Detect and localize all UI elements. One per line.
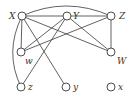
node-Z xyxy=(107,12,115,20)
label-y: y xyxy=(72,82,79,92)
edge-Y-W xyxy=(67,16,111,52)
label-z: z xyxy=(27,82,33,92)
node-X xyxy=(18,12,26,20)
label-x: x xyxy=(118,82,123,92)
node-z xyxy=(17,83,25,91)
node-W xyxy=(107,48,115,56)
node-w xyxy=(17,48,25,56)
edge-Y-z xyxy=(21,16,67,87)
label-w: w xyxy=(25,56,33,66)
graph-diagram: X Y Z w W z y x xyxy=(0,0,135,99)
label-X: X xyxy=(8,11,16,21)
label-Z: Z xyxy=(118,11,126,21)
label-Y: Y xyxy=(73,11,80,21)
edges xyxy=(13,6,111,87)
node-y xyxy=(62,83,70,91)
nodes xyxy=(17,12,115,91)
node-Y xyxy=(63,12,71,20)
edge-Y-w xyxy=(21,16,67,52)
label-W: W xyxy=(117,56,127,66)
edge-X-w xyxy=(21,16,22,52)
node-x xyxy=(107,83,115,91)
